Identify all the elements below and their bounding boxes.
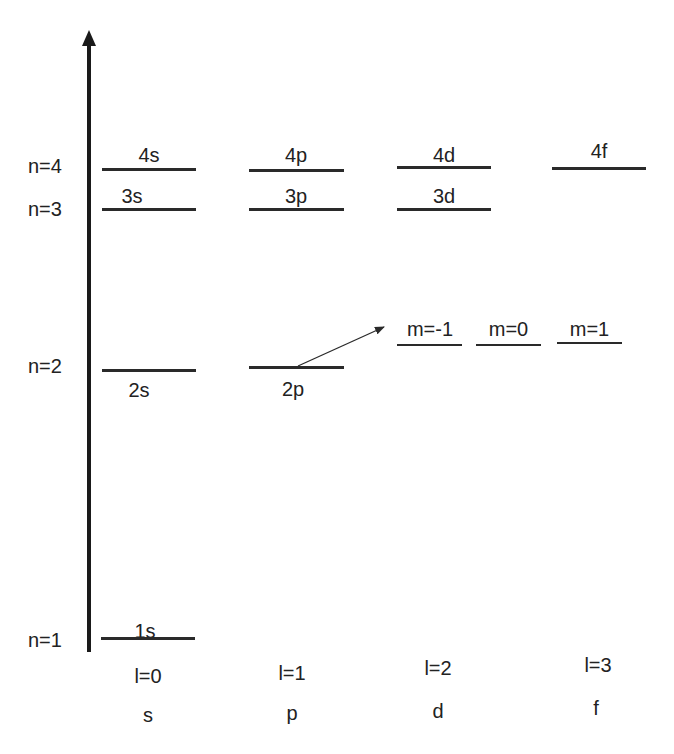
- sublevel-line-m-0: [476, 344, 541, 346]
- sublevel-line-m-neg1: [397, 344, 462, 346]
- column-letter-p: p: [254, 702, 330, 724]
- level-line-2p: [249, 366, 344, 369]
- n3-label: n=3: [28, 198, 62, 220]
- orbital-label-3d: 3d: [397, 185, 491, 207]
- column-letter-f: f: [558, 697, 634, 719]
- l-label-0: l=0: [110, 665, 186, 687]
- level-line-4s: [102, 168, 196, 171]
- level-line-2s: [102, 369, 196, 372]
- level-line-3d: [397, 208, 491, 211]
- level-line-4f: [552, 167, 646, 170]
- energy-axis: [87, 44, 91, 652]
- sublevel-label-m-0: m=0: [476, 318, 541, 340]
- level-line-3p: [249, 208, 344, 211]
- orbital-label-2p: 2p: [246, 378, 340, 400]
- orbital-label-4s: 4s: [102, 144, 196, 166]
- n4-label: n=4: [28, 155, 62, 177]
- level-line-4p: [249, 169, 344, 172]
- l-label-2: l=2: [400, 657, 476, 679]
- n2-label: n=2: [28, 355, 62, 377]
- orbital-label-2s: 2s: [92, 379, 186, 401]
- orbital-label-4d: 4d: [397, 144, 491, 166]
- sublevel-label-m-neg1: m=-1: [397, 318, 463, 340]
- column-letter-s: s: [110, 704, 186, 726]
- sublevel-label-m-1: m=1: [557, 318, 622, 340]
- energy-level-diagram: n=4 n=3 n=2 n=1 4s 3s 2s 1s 4p 3p 2p 4d …: [0, 0, 674, 754]
- level-line-3s: [102, 208, 196, 211]
- l-label-1: l=1: [254, 662, 330, 684]
- orbital-label-4f: 4f: [552, 140, 646, 162]
- orbital-label-3s: 3s: [85, 185, 179, 207]
- l-label-3: l=3: [560, 654, 636, 676]
- orbital-label-3p: 3p: [249, 185, 343, 207]
- level-line-4d: [397, 166, 491, 169]
- orbital-label-4p: 4p: [249, 144, 343, 166]
- n1-label: n=1: [28, 629, 62, 651]
- level-line-1s: [101, 637, 195, 640]
- sublevel-line-m-1: [557, 342, 622, 344]
- column-letter-d: d: [400, 700, 476, 722]
